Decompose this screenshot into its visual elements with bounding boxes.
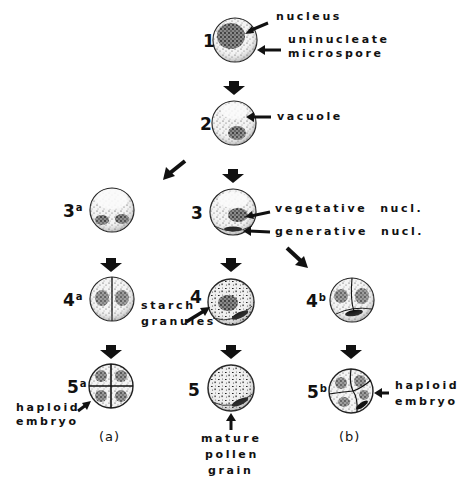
stage-label-4b: 4b	[306, 292, 326, 310]
label-nucleus: nucleus	[276, 11, 342, 23]
stage-label-4a: 4a	[63, 291, 83, 309]
cell-stage-1	[213, 18, 257, 62]
arrow-3a-to-4a	[100, 258, 122, 272]
stage-label-5: 5	[188, 381, 200, 399]
label-grain: grain	[208, 465, 253, 477]
label-granules: granules	[141, 316, 216, 328]
label-vacuole: vacuole	[277, 111, 343, 123]
stage-label-5a: 5a	[67, 378, 87, 396]
label-pollen: pollen	[205, 449, 259, 461]
pathway-label-a: (a)	[99, 429, 120, 444]
label-vegetative-nucleus: vegetative nucl.	[275, 203, 423, 215]
label-generative-nucleus: generative nucl.	[275, 226, 424, 238]
stage-label-3: 3	[191, 204, 203, 222]
cell-stage-5a	[89, 364, 133, 408]
label-mature: mature	[201, 433, 261, 445]
arrow-3-to-4	[220, 258, 242, 272]
arrow-to-haploid-embryo-b	[374, 388, 389, 398]
arrow-4-to-5	[220, 345, 242, 359]
label-embryo-b: embryo	[395, 396, 458, 408]
stage-label-1: 1	[203, 32, 215, 50]
pathway-label-b: (b)	[339, 429, 360, 444]
label-embryo-a: embryo	[16, 416, 79, 428]
cell-stage-4a	[90, 277, 134, 321]
cell-stage-5	[208, 365, 254, 411]
label-microspore: microspore	[288, 48, 384, 60]
arrow-to-mature-pollen-grain	[226, 413, 236, 430]
arrow-4a-to-5a	[100, 345, 122, 359]
arrow-4b-to-5b	[340, 345, 362, 359]
cell-stage-5b	[329, 369, 373, 413]
arrow-to-microspore	[257, 45, 281, 55]
arrow-2-to-3	[222, 169, 244, 183]
stage-label-2: 2	[200, 115, 212, 133]
stage-label-3a: 3a	[63, 202, 83, 220]
cell-stage-4b	[330, 278, 374, 322]
label-starch: starch	[141, 300, 196, 312]
arrow-2-to-3a	[163, 161, 185, 180]
arrow-1-to-2	[223, 81, 245, 95]
label-haploid-a: haploid	[16, 402, 80, 414]
label-uninucleate: uninucleate	[288, 34, 390, 46]
cell-stage-2	[212, 101, 256, 145]
arrow-3-to-4b	[287, 248, 308, 268]
stage-label-5b: 5b	[307, 383, 327, 401]
cell-stage-3a	[90, 188, 134, 232]
label-haploid-b: haploid	[395, 380, 459, 392]
